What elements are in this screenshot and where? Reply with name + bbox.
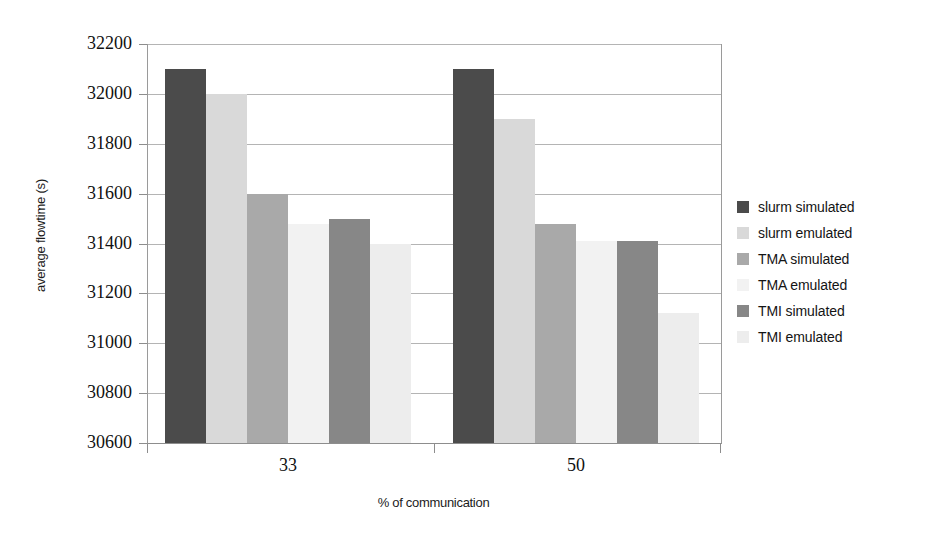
y-tick-label: 32000 [12,83,132,104]
bar [165,69,206,443]
y-tick-label: 31600 [12,183,132,204]
legend-item: TMI simulated [737,298,855,324]
bar [288,224,329,443]
bar [247,194,288,443]
legend-item: TMA emulated [737,272,855,298]
legend-label: TMI emulated [758,329,842,345]
legend-swatch-icon [737,253,749,265]
y-tick-label: 30800 [12,382,132,403]
legend-swatch-icon [737,227,749,239]
bar [576,241,617,443]
bar [658,313,699,443]
bar [535,224,576,443]
y-tick-label: 32200 [12,33,132,54]
bar [453,69,494,443]
legend-item: TMI emulated [737,324,855,350]
legend-label: slurm emulated [758,225,852,241]
bar [206,94,247,443]
x-axis-title: % of communication [147,495,720,510]
legend-item: TMA simulated [737,246,855,272]
bar [329,219,370,443]
y-tick-label: 31000 [12,332,132,353]
y-tick-label: 30600 [12,432,132,453]
y-tick-label: 31400 [12,233,132,254]
legend-label: slurm simulated [758,199,855,215]
legend-label: TMA simulated [758,251,849,267]
legend-item: slurm simulated [737,194,855,220]
bar [494,119,535,443]
legend-swatch-icon [737,279,749,291]
bar [370,244,411,444]
x-tick-mark [720,444,721,453]
legend-label: TMI simulated [758,303,845,319]
legend-swatch-icon [737,201,749,213]
x-tick-label: 50 [516,455,636,476]
x-tick-mark [147,444,148,453]
legend-swatch-icon [737,331,749,343]
x-tick-label: 33 [228,455,348,476]
legend-item: slurm emulated [737,220,855,246]
x-tick-mark [434,444,435,453]
bar [617,241,658,443]
y-tick-label: 31200 [12,282,132,303]
bars-layer [147,44,720,443]
y-tick-label: 31800 [12,133,132,154]
legend-swatch-icon [737,305,749,317]
legend-label: TMA emulated [758,277,847,293]
chart-legend: slurm simulatedslurm emulatedTMA simulat… [737,194,855,350]
bar-chart: average flowtime (s) 3220032000318003160… [0,0,937,540]
